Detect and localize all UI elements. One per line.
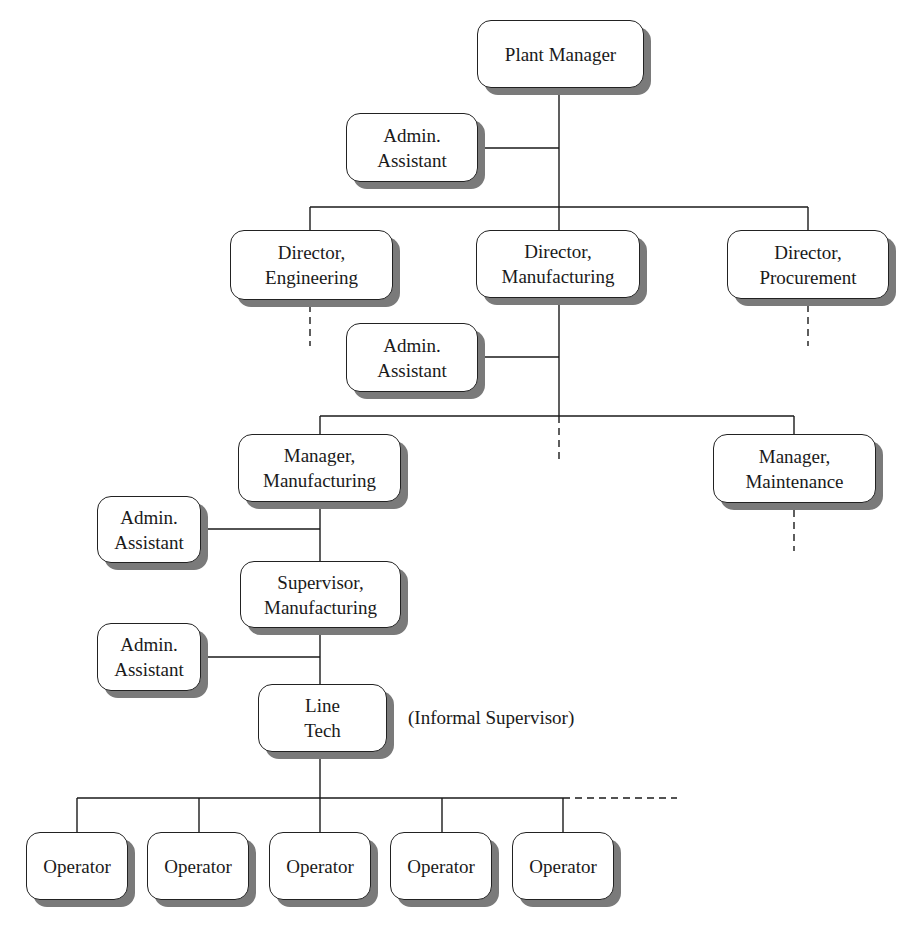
- node-plant-manager: Plant Manager: [477, 20, 644, 88]
- node-label-line2: Engineering: [265, 265, 358, 290]
- node-label-line1: Admin.: [120, 632, 178, 657]
- node-operator: Operator: [147, 832, 249, 900]
- org-chart: Plant Manager Admin. Assistant Director,…: [0, 0, 909, 941]
- node-label-line2: Assistant: [114, 530, 184, 555]
- node-supervisor-manufacturing: Supervisor, Manufacturing: [240, 561, 401, 628]
- node-label-line2: Assistant: [114, 657, 184, 682]
- node-label-line2: Assistant: [377, 358, 447, 383]
- node-label-line1: Supervisor,: [277, 570, 363, 595]
- node-label-line1: Line: [305, 693, 340, 718]
- node-admin-assistant-plant: Admin. Assistant: [346, 113, 478, 182]
- node-label: Operator: [43, 854, 111, 879]
- node-label-line1: Director,: [278, 240, 345, 265]
- node-admin-assistant-director: Admin. Assistant: [346, 323, 478, 392]
- node-operator: Operator: [26, 832, 128, 900]
- node-label-line1: Admin.: [120, 505, 178, 530]
- node-admin-assistant-manager: Admin. Assistant: [97, 496, 201, 563]
- node-operator: Operator: [390, 832, 492, 900]
- node-label-line2: Maintenance: [745, 469, 843, 494]
- node-label-line1: Director,: [774, 240, 841, 265]
- node-label: Plant Manager: [505, 42, 616, 67]
- node-label: Operator: [164, 854, 232, 879]
- informal-supervisor-annotation: (Informal Supervisor): [408, 707, 574, 729]
- node-label-line2: Assistant: [377, 148, 447, 173]
- node-admin-assistant-supervisor: Admin. Assistant: [97, 623, 201, 691]
- node-director-engineering: Director, Engineering: [230, 230, 393, 300]
- node-label: Operator: [286, 854, 354, 879]
- node-label: Operator: [529, 854, 597, 879]
- node-manager-maintenance: Manager, Maintenance: [713, 434, 876, 503]
- node-label-line2: Manufacturing: [502, 264, 615, 289]
- node-manager-manufacturing: Manager, Manufacturing: [238, 434, 401, 502]
- node-label-line2: Manufacturing: [264, 595, 377, 620]
- node-label-line1: Manager,: [284, 443, 356, 468]
- node-label-line1: Admin.: [383, 333, 441, 358]
- node-label: Operator: [407, 854, 475, 879]
- node-operator: Operator: [269, 832, 371, 900]
- node-director-procurement: Director, Procurement: [727, 230, 889, 299]
- node-label-line2: Tech: [304, 718, 341, 743]
- node-line-tech: Line Tech: [258, 684, 387, 752]
- node-label-line1: Admin.: [383, 123, 441, 148]
- node-director-manufacturing: Director, Manufacturing: [476, 230, 640, 298]
- node-operator: Operator: [512, 832, 614, 900]
- node-label-line1: Manager,: [759, 444, 831, 469]
- node-label-line2: Manufacturing: [263, 468, 376, 493]
- node-label-line1: Director,: [524, 239, 591, 264]
- node-label-line2: Procurement: [759, 265, 856, 290]
